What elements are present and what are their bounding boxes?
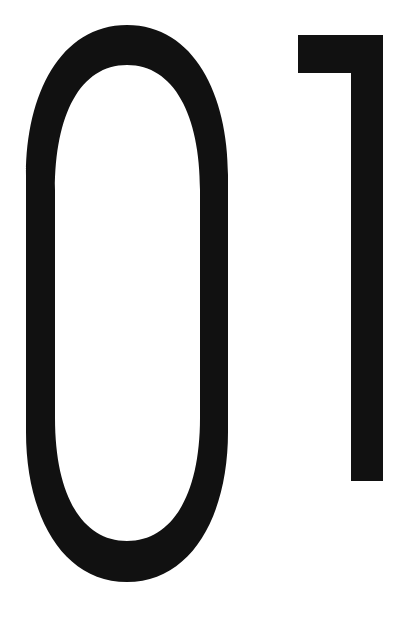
digit-zero-glyph — [26, 25, 228, 582]
digit-one-glyph — [298, 35, 383, 481]
numeral-graphic — [0, 0, 402, 621]
